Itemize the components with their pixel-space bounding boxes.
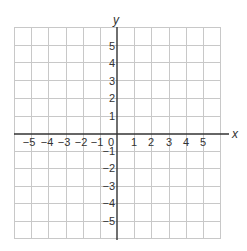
x-tick-label: −4 (41, 136, 54, 148)
y-tick-label: 5 (109, 40, 115, 52)
x-tick-label: 5 (200, 136, 206, 148)
x-tick-label: 3 (166, 136, 172, 148)
x-axis-label: x (231, 127, 239, 141)
x-tick-label: −3 (58, 136, 71, 148)
y-tick-label: −2 (102, 162, 115, 174)
x-tick-label: −2 (75, 136, 88, 148)
y-tick-label: −1 (102, 145, 115, 157)
y-tick-label: 4 (109, 57, 115, 69)
y-tick-label: −4 (102, 197, 115, 209)
y-tick-label: 1 (109, 110, 115, 122)
x-tick-label: 1 (131, 136, 137, 148)
y-tick-label: 2 (109, 92, 115, 104)
y-tick-label: −5 (102, 215, 115, 227)
x-tick-label: −1 (91, 136, 104, 148)
y-tick-label: −3 (102, 180, 115, 192)
y-axis-label: y (112, 13, 120, 27)
x-tick-label: 2 (148, 136, 154, 148)
x-tick-label: 4 (183, 136, 189, 148)
x-tick-label: −5 (23, 136, 36, 148)
coordinate-grid: x y −5 −4 −3 −2 −1 0 1 2 3 4 5 5 4 3 2 1… (0, 0, 247, 251)
y-tick-label: 3 (109, 75, 115, 87)
